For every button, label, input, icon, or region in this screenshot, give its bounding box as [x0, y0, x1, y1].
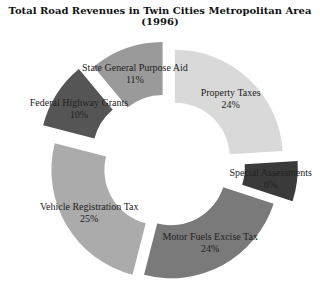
slice-percent: 6% [264, 179, 277, 190]
slice-percent: 24% [221, 99, 239, 110]
slice-percent: 10% [70, 109, 88, 120]
donut-chart: Property Taxes24%Special Assessments6%Mo… [0, 0, 320, 297]
slice-label: Motor Fuels Excise Tax [162, 231, 258, 242]
slice-label: State General Purpose Aid [82, 62, 188, 73]
slice-label: Vehicle Registration Tax [40, 201, 139, 212]
slice-percent: 11% [126, 74, 144, 85]
slice-label: Special Assessments [229, 167, 312, 178]
slice-percent: 24% [201, 243, 219, 254]
slice-percent: 25% [80, 213, 98, 224]
slice-label: Federal Highway Grants [30, 97, 128, 108]
slice-label: Property Taxes [201, 87, 261, 98]
